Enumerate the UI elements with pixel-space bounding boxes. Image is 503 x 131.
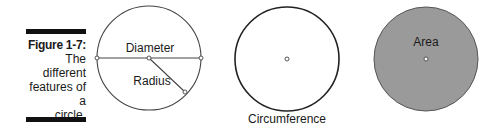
area-label: Area	[413, 35, 439, 49]
radius-label: Radius	[133, 74, 170, 88]
circumference-label: Circumference	[248, 112, 326, 126]
diameter-radius-diagram: Diameter Radius	[95, 6, 203, 110]
circle-diagrams: Diameter Radius Circumference Area	[0, 0, 503, 131]
diameter-label: Diameter	[126, 41, 175, 55]
area-diagram: Area	[374, 7, 478, 111]
circumference-diagram: Circumference	[235, 7, 339, 126]
